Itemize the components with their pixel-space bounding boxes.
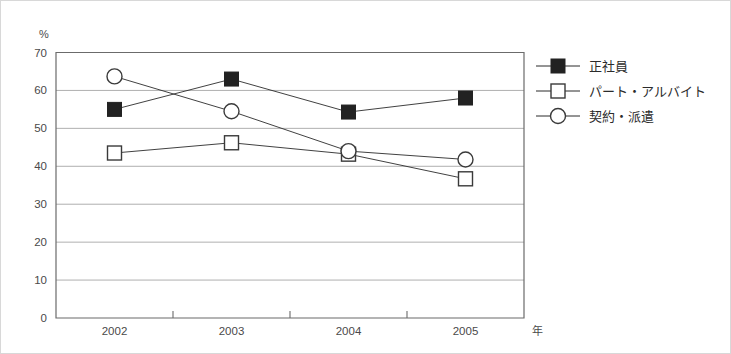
legend-item-label: 正社員 [589,59,628,74]
legend-item: パート・アルバイト [536,84,706,99]
chart-legend: 正社員パート・アルバイト契約・派遣 [536,59,706,124]
data-series [115,79,466,112]
x-axis-unit-label: 年 [532,324,543,337]
data-point-filled-square-icon [459,91,473,105]
series-line [115,79,466,112]
data-series-markers [108,136,473,186]
legend-marker-icon [551,84,565,98]
data-point-open-circle-icon [107,69,122,84]
x-axis-tick-label: 2005 [453,325,479,337]
data-point-filled-square-icon [342,105,356,119]
y-axis-tick-label: 40 [34,160,47,172]
legend-item-label: 契約・派遣 [589,109,654,124]
legend-marker-icon [551,109,566,124]
y-axis-tick-label: 20 [34,236,47,248]
y-axis-tick-label: 0 [41,312,47,324]
legend-marker-icon [551,59,565,73]
y-axis-tick-label: 30 [34,198,47,210]
y-axis-tick-label: 50 [34,122,47,134]
y-axis-unit-label: % [39,28,49,40]
y-axis-tick-label: 10 [34,274,47,286]
legend-item-label: パート・アルバイト [589,84,706,99]
chart-figure: % 010203040506070 2002200320042005 年 正社員… [0,0,731,354]
data-series-group [107,69,473,186]
line-chart: % 010203040506070 2002200320042005 年 正社員… [1,1,731,354]
data-point-open-square-icon [459,172,473,186]
x-axis-tick-label: 2003 [219,325,245,337]
x-axis-tick-label: 2004 [336,325,362,337]
gridlines-group [56,90,524,280]
x-axis-tick-label: 2002 [102,325,128,337]
legend-item: 契約・派遣 [536,109,654,125]
data-point-open-square-icon [108,146,122,160]
data-series [115,76,466,159]
series-line [115,76,466,159]
data-point-open-circle-icon [224,104,239,119]
legend-item: 正社員 [536,59,628,74]
data-point-filled-square-icon [225,72,239,86]
data-series-markers [107,69,473,167]
data-point-open-circle-icon [458,152,473,167]
data-series [115,143,466,179]
x-axis-tick-labels: 2002200320042005 [102,325,479,337]
y-axis-tick-label: 60 [34,84,47,96]
data-point-open-circle-icon [341,144,356,159]
y-axis-tick-labels: 010203040506070 [34,47,47,325]
plot-area-border [56,53,524,319]
data-point-filled-square-icon [108,102,122,116]
data-point-open-square-icon [225,136,239,150]
series-line [115,143,466,179]
x-axis-tick-marks [173,311,407,318]
y-axis-tick-label: 70 [34,47,47,59]
